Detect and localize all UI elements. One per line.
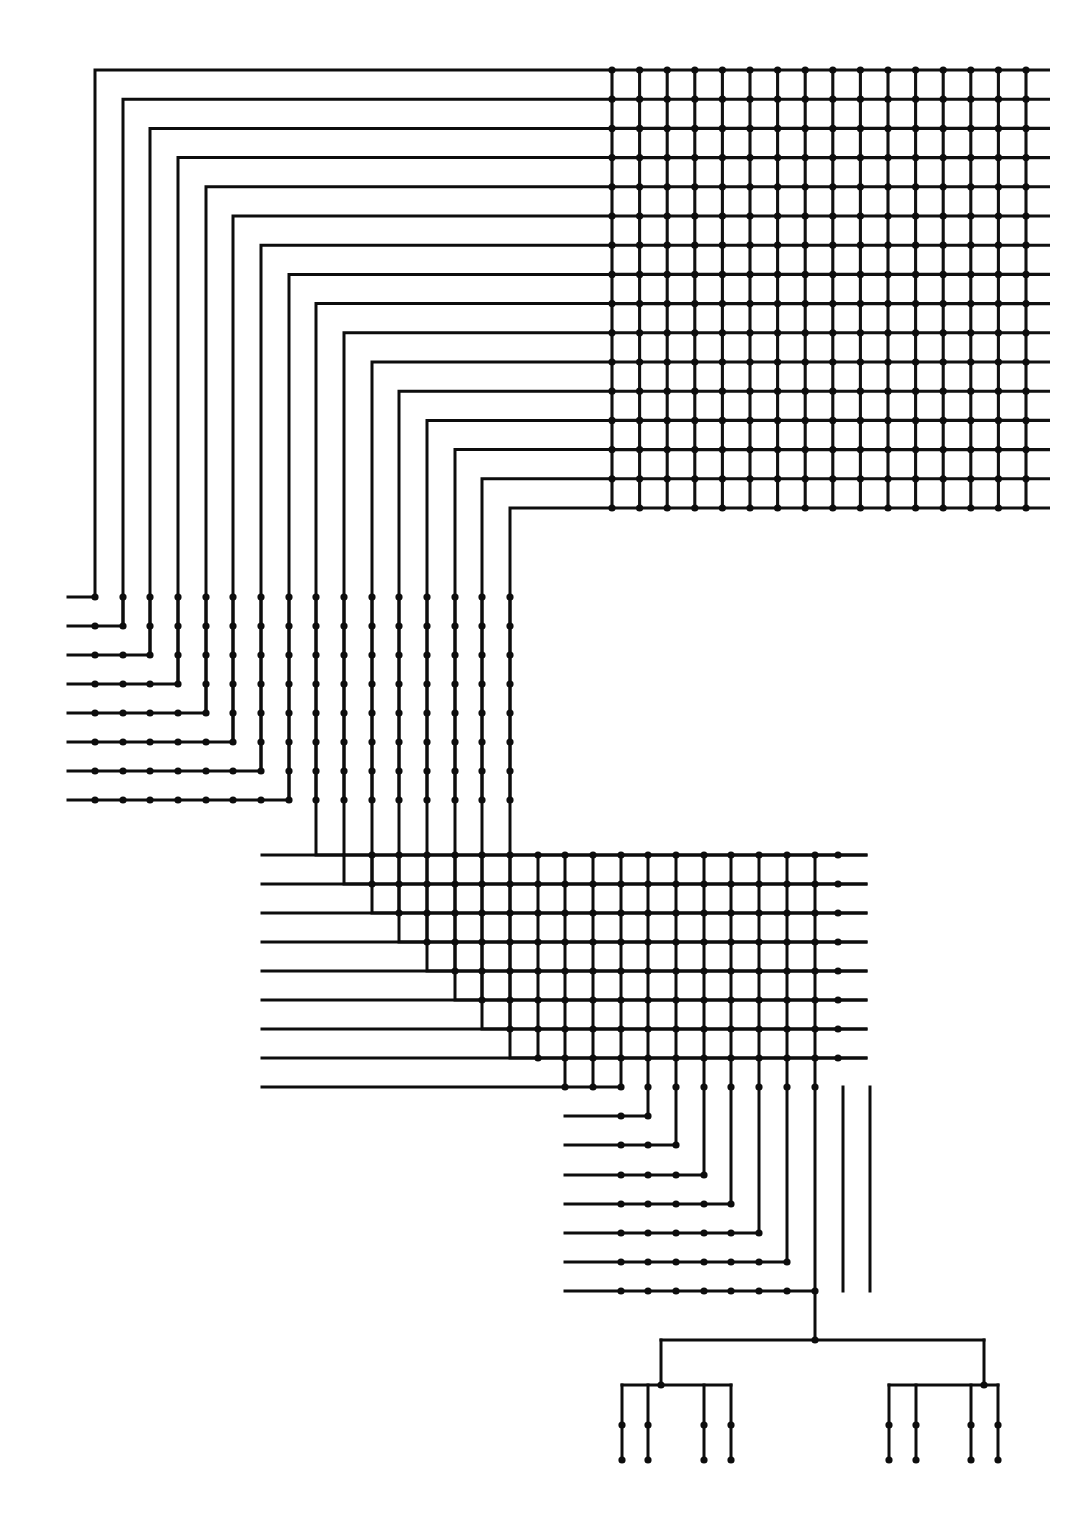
junction-node (884, 183, 891, 190)
junction-node (636, 66, 643, 73)
junction-node (811, 909, 818, 916)
junction-node (719, 96, 726, 103)
junction-node (700, 996, 707, 1003)
junction-node (700, 1025, 707, 1032)
junction-node (368, 796, 375, 803)
junction-node (912, 183, 919, 190)
junction-node (608, 212, 615, 219)
junction-node (534, 1054, 541, 1061)
junction-node (783, 1025, 790, 1032)
junction-node (636, 417, 643, 424)
junction-node (774, 271, 781, 278)
junction-node (174, 680, 181, 687)
junction-node (884, 96, 891, 103)
junction-node (940, 300, 947, 307)
junction-node (884, 504, 891, 511)
junction-node (700, 938, 707, 945)
junction-node (672, 967, 679, 974)
junction-node (561, 1054, 568, 1061)
junction-node (395, 851, 402, 858)
junction-node (719, 475, 726, 482)
junction-node (857, 329, 864, 336)
junction-node (746, 388, 753, 395)
junction-node (146, 651, 153, 658)
junction-node (834, 967, 841, 974)
junction-node (884, 212, 891, 219)
junction-node (608, 358, 615, 365)
junction-node (727, 1421, 734, 1428)
junction-node (617, 1200, 624, 1207)
junction-node (719, 504, 726, 511)
junction-node (774, 504, 781, 511)
junction-node (395, 593, 402, 600)
junction-node (802, 446, 809, 453)
junction-node (802, 329, 809, 336)
junction-node (1022, 300, 1029, 307)
junction-node (636, 271, 643, 278)
junction-node (617, 1141, 624, 1148)
junction-node (119, 622, 126, 629)
junction-node (727, 996, 734, 1003)
junction-node (91, 796, 98, 803)
junction-node (691, 66, 698, 73)
routing-diagram: Recursive mesh interconnect routing diag… (0, 0, 1078, 1514)
junction-node (506, 767, 513, 774)
junction-node (774, 183, 781, 190)
junction-node (672, 1200, 679, 1207)
junction-node (857, 183, 864, 190)
junction-node (995, 212, 1002, 219)
junction-node (174, 709, 181, 716)
junction-node (91, 622, 98, 629)
junction-node (884, 125, 891, 132)
junction-node (811, 967, 818, 974)
junction-node (617, 880, 624, 887)
junction-node (423, 796, 430, 803)
junction-node (755, 1083, 762, 1090)
nest-elbow-channel (344, 333, 612, 800)
junction-node (395, 709, 402, 716)
junction-node (783, 967, 790, 974)
junction-node (783, 1054, 790, 1061)
junction-node (423, 880, 430, 887)
junction-node (829, 329, 836, 336)
junction-node (672, 909, 679, 916)
junction-node (700, 1456, 707, 1463)
junction-node (834, 909, 841, 916)
junction-node (719, 66, 726, 73)
junction-node (608, 66, 615, 73)
junction-node (423, 738, 430, 745)
junction-node (451, 680, 458, 687)
junction-node (802, 154, 809, 161)
junction-node (967, 358, 974, 365)
junction-node (589, 1054, 596, 1061)
junction-node (636, 212, 643, 219)
junction-node (119, 767, 126, 774)
junction-node (912, 300, 919, 307)
junction-node (857, 125, 864, 132)
junction-node (755, 1025, 762, 1032)
junction-node (506, 967, 513, 974)
junction-node (802, 417, 809, 424)
junction-node (829, 154, 836, 161)
junction-node (727, 1083, 734, 1090)
junction-node (719, 329, 726, 336)
junction-node (672, 1083, 679, 1090)
junction-node (285, 796, 292, 803)
junction-node (967, 417, 974, 424)
junction-node (644, 1025, 651, 1032)
junction-node (727, 967, 734, 974)
junction-node (912, 417, 919, 424)
junction-node (229, 796, 236, 803)
junction-node (340, 622, 347, 629)
junction-node (700, 851, 707, 858)
junction-node (229, 709, 236, 716)
junction-node (811, 1336, 818, 1343)
junction-node (857, 504, 864, 511)
junction-node (940, 183, 947, 190)
junction-node (829, 417, 836, 424)
junction-node (229, 738, 236, 745)
junction-node (395, 796, 402, 803)
junction-node (395, 680, 402, 687)
junction-node (608, 125, 615, 132)
junction-node (506, 796, 513, 803)
